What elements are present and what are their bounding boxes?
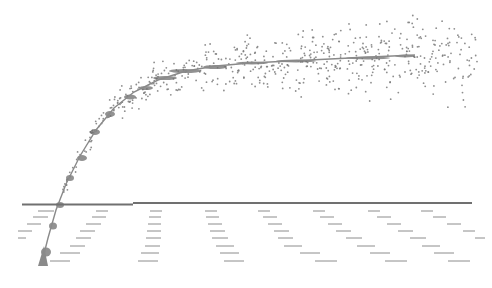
- background: [0, 0, 492, 288]
- scatter-curve-diagram: [0, 0, 492, 288]
